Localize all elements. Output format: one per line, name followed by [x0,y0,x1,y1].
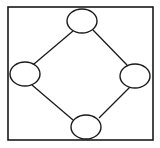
edge-top-right [93,30,127,65]
edge-left-bottom [32,85,73,120]
edge-top-left [34,31,73,64]
node-right [120,64,150,88]
edge-right-bottom [99,87,130,118]
node-top [67,9,97,33]
node-left [10,62,40,86]
node-bottom [71,115,101,139]
diagram-canvas [0,0,160,148]
